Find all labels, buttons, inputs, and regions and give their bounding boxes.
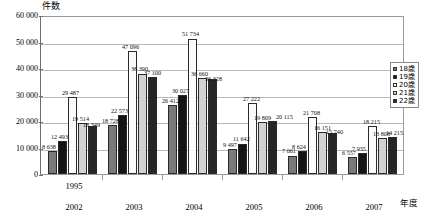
x-label-2003: 2003 — [111, 203, 157, 212]
legend-item-19: 19歳 — [393, 73, 415, 81]
x-label-2002: 2002 — [51, 203, 97, 212]
x-group-separator — [102, 175, 103, 180]
legend-label: 18歳 — [399, 66, 415, 73]
legend-label: 20歳 — [399, 82, 415, 89]
legend-swatch-icon — [393, 91, 397, 95]
legend-item-20: 20歳 — [393, 81, 415, 89]
legend-label: 21歳 — [399, 90, 415, 97]
x-axis-title: 年度 — [400, 196, 418, 208]
legend-item-18: 18歳 — [393, 65, 415, 73]
legend-item-22: 22歳 — [393, 97, 415, 105]
x-label-2004: 2004 — [171, 203, 217, 212]
legend-label: 19歳 — [399, 74, 415, 81]
x-label-2006: 2006 — [291, 203, 337, 212]
legend-item-21: 21歳 — [393, 89, 415, 97]
x-label-2005: 2005 — [231, 203, 277, 212]
legend-swatch-icon — [393, 83, 397, 87]
x-group-separator — [342, 175, 343, 180]
legend-swatch-icon — [393, 75, 397, 79]
x-label-2007: 2007 — [351, 203, 397, 212]
legend-swatch-icon — [393, 99, 397, 103]
legend: 18歳 19歳 20歳 21歳 22歳 — [390, 62, 419, 108]
legend-label: 22歳 — [399, 98, 415, 105]
x-group-separator — [282, 175, 283, 180]
bar-chart: 件数 60 000 50 000 40 000 30 000 20 000 10… — [0, 0, 422, 224]
x-axis: 1995 2002 2003 2004 2005 2006 2007 年度 — [0, 0, 422, 224]
legend-swatch-icon — [393, 67, 397, 71]
x-group-separator — [162, 175, 163, 180]
x-label-1995: 1995 — [51, 182, 97, 191]
x-group-separator — [222, 175, 223, 180]
